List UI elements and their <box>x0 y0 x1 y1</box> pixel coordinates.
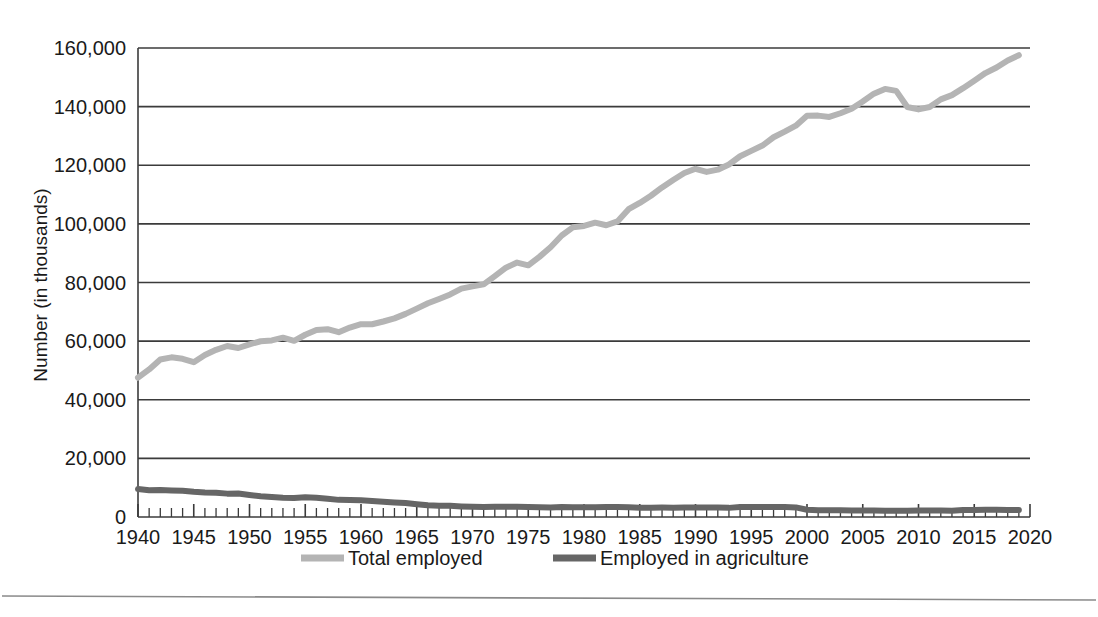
y-tick-label-20000: 20,000 <box>65 447 126 469</box>
x-tick-label-2010: 2010 <box>896 526 941 548</box>
x-tick-label-2005: 2005 <box>841 526 886 548</box>
x-tick-label-1990: 1990 <box>673 526 718 548</box>
x-tick-label-1995: 1995 <box>729 526 774 548</box>
legend-label-0: Total employed <box>348 547 483 569</box>
y-axis-tick-labels: 020,00040,00060,00080,000100,000120,0001… <box>54 37 126 528</box>
y-axis-title: Number (in thousands) <box>30 188 51 381</box>
footer-divider-rule <box>2 596 1096 600</box>
employment-line-chart: 020,00040,00060,00080,000100,000120,0001… <box>0 0 1098 617</box>
x-tick-label-1955: 1955 <box>283 526 328 548</box>
y-tick-label-60000: 60,000 <box>65 330 126 352</box>
series-line-total-employed <box>138 55 1019 378</box>
series-line-employed-in-agriculture <box>138 489 1019 511</box>
x-axis-tick-labels: 1940194519501955196019651970197519801985… <box>116 526 1053 548</box>
x-tick-label-1985: 1985 <box>618 526 663 548</box>
x-tick-label-1940: 1940 <box>116 526 161 548</box>
y-tick-label-160000: 160,000 <box>54 37 126 59</box>
x-tick-label-1970: 1970 <box>450 526 495 548</box>
x-tick-label-2000: 2000 <box>785 526 830 548</box>
legend-label-1: Employed in agriculture <box>600 547 809 569</box>
x-tick-label-1975: 1975 <box>506 526 551 548</box>
y-tick-label-100000: 100,000 <box>54 213 126 235</box>
x-tick-label-2020: 2020 <box>1008 526 1053 548</box>
figure-container: 020,00040,00060,00080,000100,000120,0001… <box>0 0 1098 617</box>
x-tick-label-1965: 1965 <box>395 526 440 548</box>
x-tick-label-1945: 1945 <box>172 526 217 548</box>
y-tick-label-120000: 120,000 <box>54 154 126 176</box>
y-tick-label-40000: 40,000 <box>65 389 126 411</box>
y-tick-label-0: 0 <box>115 506 126 528</box>
chart-legend: Total employedEmployed in agriculture <box>301 547 809 569</box>
x-tick-label-2015: 2015 <box>952 526 997 548</box>
y-tick-label-140000: 140,000 <box>54 96 126 118</box>
x-tick-label-1950: 1950 <box>227 526 272 548</box>
x-tick-label-1960: 1960 <box>339 526 384 548</box>
y-tick-label-80000: 80,000 <box>65 272 126 294</box>
gridlines-group <box>138 48 1030 517</box>
x-tick-label-1980: 1980 <box>562 526 607 548</box>
